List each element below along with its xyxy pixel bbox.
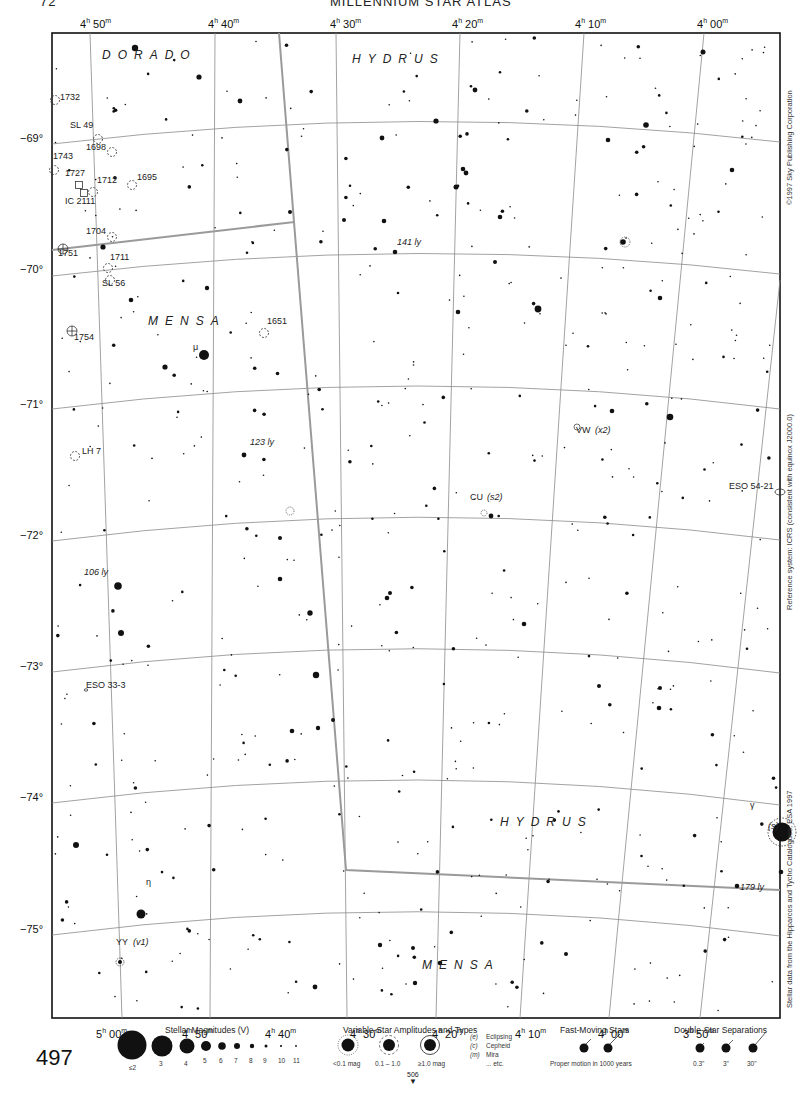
deep-sky-objects-layer — [50, 96, 786, 967]
coordinate-grid — [52, 33, 780, 1018]
ra-bottom-label: 4h 10m — [515, 1027, 546, 1040]
deep-sky-label: ESO 54-21 — [729, 482, 774, 491]
dec-label: −72° — [20, 529, 43, 541]
deep-sky-label: 1751 — [58, 249, 78, 258]
star-chart — [0, 0, 812, 1093]
header-page-number: 72 — [40, 0, 56, 9]
legend-magnitude-label: 10 — [278, 1057, 285, 1064]
dec-label: −70° — [20, 263, 43, 275]
star-label: (s2) — [487, 493, 503, 502]
deep-sky-label: SL 49 — [70, 121, 93, 130]
down-arrow-icon: ▼ — [407, 1078, 419, 1085]
legend-variable-type-name: Mira — [486, 1051, 499, 1058]
deep-sky-label: 1712 — [97, 176, 117, 185]
legend-fast-moving-title: Fast-Moving Stars — [560, 1025, 629, 1035]
legend-variable-type-code: (c) — [470, 1042, 478, 1049]
ra-bottom-label: 4h 40m — [265, 1027, 296, 1040]
dec-label: −69° — [20, 132, 43, 144]
legend-magnitude-label: 4 — [184, 1060, 188, 1067]
next-page-link[interactable]: 506 ▼ — [407, 1071, 419, 1085]
star-label: CU — [470, 493, 483, 502]
star-label: (s) — [768, 822, 779, 831]
star-label: 141 ly — [397, 238, 421, 247]
deep-sky-label: 1732 — [60, 93, 80, 102]
deep-sky-label: 1651 — [267, 317, 287, 326]
dec-label: −74° — [20, 791, 43, 803]
legend-magnitude-label: 5 — [203, 1057, 207, 1064]
reference-system-text: Reference system: ICRS (consistent with … — [785, 414, 794, 610]
ra-top-label: 4h 30m — [330, 17, 361, 30]
faint-stars-layer — [55, 36, 778, 1011]
ra-top-label: 4h 20m — [452, 17, 483, 30]
page-number: 497 — [36, 1045, 73, 1071]
star-label: 123 ly — [250, 438, 274, 447]
deep-sky-label: SL 56 — [102, 279, 125, 288]
legend-variables-title: Variable-Star Amplitudes and Types — [343, 1025, 477, 1035]
star-label: η — [146, 878, 151, 887]
legend-magnitude-label: ≤2 — [129, 1064, 136, 1071]
legend-magnitude-label: 3 — [159, 1060, 163, 1067]
header-title: MILLENNIUM STAR ATLAS — [330, 0, 512, 9]
constellation-label: MENSA — [148, 314, 226, 328]
legend-magnitude-label: 8 — [249, 1057, 253, 1064]
deep-sky-label: ESO 33-3 — [86, 681, 126, 690]
dec-label: −73° — [20, 660, 43, 672]
star-label: YY — [116, 938, 128, 947]
ra-top-label: 4h 40m — [208, 17, 239, 30]
copyright-text: ©1997 Sky Publishing Corporation — [785, 90, 794, 205]
star-label: (v1) — [133, 938, 149, 947]
legend-magnitude-label: 7 — [234, 1057, 238, 1064]
legend-variable-type-name: ... etc. — [486, 1060, 504, 1067]
deep-sky-label: LH 7 — [82, 447, 101, 456]
dec-label: −75° — [20, 923, 43, 935]
deep-sky-label: 1698 — [86, 143, 106, 152]
legend-variable-type-code: (m) — [470, 1051, 480, 1058]
ra-top-label: 4h 50m — [80, 17, 111, 30]
constellation-boundaries — [52, 33, 780, 890]
star-label: 179 ly — [740, 883, 764, 892]
deep-sky-label: 1711 — [110, 253, 129, 262]
legend-magnitudes-title: Stellar Magnitudes (V) — [165, 1025, 249, 1035]
legend-variable-label-3: ≥1.0 mag — [418, 1060, 445, 1067]
constellation-label: HYDRUS — [352, 52, 445, 66]
ra-top-label: 4h 00m — [697, 17, 728, 30]
chart-frame — [52, 33, 780, 1018]
legend-magnitude-label: 11 — [293, 1057, 300, 1064]
deep-sky-label: 1754 — [74, 333, 94, 342]
deep-sky-label: 1727 — [65, 169, 85, 178]
legend-doubles-title: Double-Star Separations — [674, 1025, 767, 1035]
star-label: 106 ly — [84, 568, 108, 577]
legend-variable-label-2: 0.1 – 1.0 — [375, 1060, 400, 1067]
constellation-label: DORADO — [102, 48, 197, 62]
deep-sky-label: 1704 — [86, 227, 106, 236]
constellation-label: HYDRUS — [500, 815, 593, 829]
star-label: (x2) — [595, 426, 611, 435]
legend-variable-label-1: <0.1 mag — [333, 1060, 360, 1067]
star-label: μ — [193, 343, 198, 352]
legend-fast-moving-caption: Proper motion in 1000 years — [550, 1060, 632, 1067]
star-label: γ — [750, 801, 755, 810]
legend-double-label-1: 0.3" — [693, 1060, 704, 1067]
legend-magnitude-label: 6 — [219, 1057, 223, 1064]
deep-sky-label: 1743 — [53, 152, 73, 161]
star-label: VW — [576, 426, 591, 435]
legend-double-label-2: 3" — [723, 1060, 729, 1067]
legend-double-label-3: 30" — [747, 1060, 757, 1067]
deep-sky-label: 1695 — [137, 173, 157, 182]
dec-label: −71° — [20, 398, 43, 410]
ra-bottom-label: 5h 00m — [96, 1027, 127, 1040]
data-source-text: Stellar data from the Hipparcos and Tych… — [785, 791, 794, 1009]
ra-top-label: 4h 10m — [575, 17, 606, 30]
legend-variable-type-name: Eclipsing — [486, 1033, 512, 1040]
legend-variable-type-name: Cepheid — [486, 1042, 510, 1049]
deep-sky-label: IC 2111 — [65, 197, 95, 206]
legend-variable-type-code: (e) — [470, 1033, 478, 1040]
constellation-label: MENSA — [422, 958, 500, 972]
legend-magnitude-label: 9 — [263, 1057, 267, 1064]
